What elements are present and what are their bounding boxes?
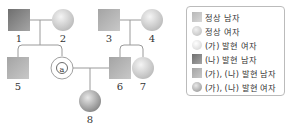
individual-4-female: [141, 9, 163, 31]
legend-label: 정상 남자: [205, 11, 240, 23]
individual-7-female: [132, 57, 154, 79]
label-1: 1: [16, 33, 22, 44]
circle-symbol-icon: [192, 82, 202, 92]
legend-label: (가), (나) 발현 여자: [205, 81, 276, 93]
individual-3-male: [98, 9, 120, 31]
legend-item-ga-female: (가) 발현 여자: [192, 38, 284, 52]
label-5: 5: [15, 81, 21, 92]
individual-2-female: [52, 9, 74, 31]
legend-item-normal-female: 정상 여자: [192, 24, 284, 38]
label-7: 7: [140, 81, 146, 92]
square-symbol-icon: [192, 54, 202, 64]
legend-label: (가) 발현 여자: [205, 39, 257, 51]
legend-label: 정상 여자: [205, 25, 240, 37]
legend-item-normal-male: 정상 남자: [192, 10, 284, 24]
individual-8-female: [79, 90, 101, 112]
label-a-letter: a: [60, 65, 65, 74]
legend-item-na-male: (나) 발현 남자: [192, 52, 284, 66]
legend-label: (가), (나) 발현 남자: [205, 67, 276, 79]
pedigree-lines: [18, 20, 143, 90]
individual-6-male: [109, 57, 131, 79]
legend-item-ga-na-male: (가), (나) 발현 남자: [192, 66, 284, 80]
sibship-line-6-7: [120, 45, 143, 58]
label-6: 6: [117, 81, 123, 92]
legend-label: (나) 발현 남자: [205, 53, 257, 65]
label-3: 3: [106, 33, 112, 44]
label-8: 8: [87, 114, 93, 125]
individual-1-male: [8, 9, 30, 31]
circle-symbol-icon: [192, 26, 202, 36]
label-4: 4: [149, 33, 155, 44]
legend-item-ga-na-female: (가), (나) 발현 여자: [192, 80, 284, 94]
square-symbol-icon: [192, 68, 202, 78]
sibship-line-5-a: [18, 45, 62, 58]
square-symbol-icon: [192, 12, 202, 22]
circle-symbol-icon: [192, 40, 202, 50]
label-2: 2: [60, 33, 66, 44]
individual-5-male: [7, 57, 29, 79]
legend: 정상 남자 정상 여자 (가) 발현 여자 (나) 발현 남자 (가), (나)…: [186, 6, 285, 96]
